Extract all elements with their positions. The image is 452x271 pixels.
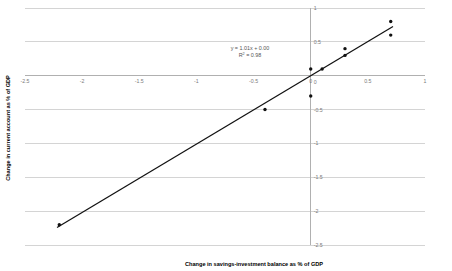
y-tick-label: -0.5 <box>314 107 323 113</box>
x-tick-label: -2.5 <box>21 78 30 84</box>
chart-background <box>0 0 452 271</box>
data-point <box>309 94 312 97</box>
data-point <box>389 33 392 36</box>
scatter-chart: -2.5-2-1.5-1-0.500.51 -2.5-2-1.5-1-0.500… <box>0 0 452 271</box>
x-tick-label: -2 <box>80 78 85 84</box>
y-tick-label: -1 <box>314 140 319 146</box>
y-tick-label: 1 <box>314 5 317 11</box>
y-axis-title: Change in current account as % of GDP <box>5 75 11 181</box>
x-tick-label: 0.5 <box>364 78 371 84</box>
y-tick-label: -1.5 <box>314 174 323 180</box>
chart-canvas: -2.5-2-1.5-1-0.500.51 -2.5-2-1.5-1-0.500… <box>0 0 452 271</box>
x-tick-label: -0.5 <box>249 78 258 84</box>
x-tick-label: 0 <box>309 78 312 84</box>
y-tick-label: -2.5 <box>314 242 323 248</box>
x-tick-label: -1 <box>194 78 199 84</box>
data-point <box>389 20 392 23</box>
x-tick-label: -1.5 <box>135 78 144 84</box>
trendline-equation-label: y = 1.01x + 0.00 <box>231 45 270 51</box>
y-tick-label: 0.5 <box>314 39 321 45</box>
x-axis-title: Change in savings-investment balance as … <box>185 261 323 267</box>
r-squared-label: R2 = 0.98 <box>239 52 262 58</box>
y-tick-label: 0 <box>314 79 317 85</box>
data-point <box>343 47 346 50</box>
data-point <box>263 108 266 111</box>
data-point <box>309 67 312 70</box>
data-point <box>320 67 323 70</box>
x-tick-label: 1 <box>424 78 427 84</box>
data-point <box>343 54 346 57</box>
data-point <box>58 223 61 226</box>
y-tick-label: -2 <box>314 208 319 214</box>
